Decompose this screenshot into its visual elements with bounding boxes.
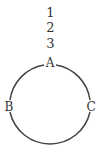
node-b: B <box>5 100 14 114</box>
node-c: C <box>86 100 95 114</box>
arc-c-a <box>56 65 90 100</box>
arc-a-b <box>10 65 44 100</box>
arc-b-c <box>10 112 90 144</box>
circle-diagram: A B C <box>0 0 101 157</box>
node-a: A <box>45 56 55 70</box>
